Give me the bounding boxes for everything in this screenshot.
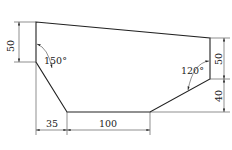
dimension-label: 50: [5, 40, 16, 52]
drawing-canvas: 50 50 40 35 100 150° 120°: [0, 0, 232, 150]
angle-label: 120°: [181, 65, 204, 76]
dimension-label: 40: [213, 90, 224, 102]
angle-left-150: 150°: [37, 44, 67, 68]
dimension-label: 50: [213, 53, 224, 65]
dimension-bottom: 35 100: [36, 62, 150, 135]
dimension-label: 100: [99, 118, 117, 129]
dimension-left-50: 50: [5, 22, 36, 62]
angle-label: 150°: [44, 55, 67, 66]
angle-right-120: 120°: [181, 61, 209, 90]
dimension-label: 35: [46, 118, 58, 129]
